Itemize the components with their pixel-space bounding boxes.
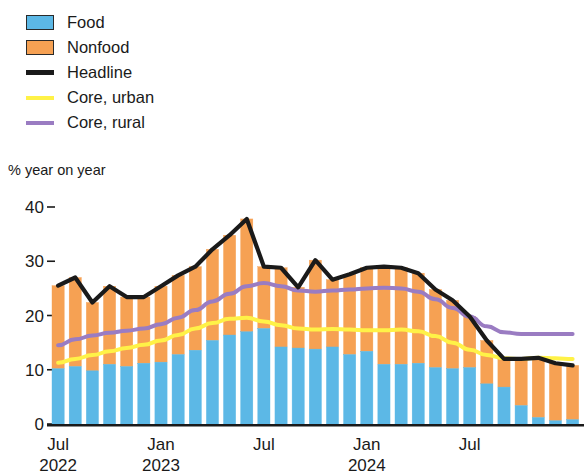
bar-segment-nonfood (275, 268, 287, 347)
bar-segment-food (498, 387, 510, 424)
bar-segment-food (549, 421, 561, 424)
x-tick-label-month-0: Jul (47, 435, 69, 454)
x-tick-label-month-2: Jul (253, 435, 275, 454)
bar-segment-nonfood (515, 359, 527, 406)
x-tick-label-year-3: 2024 (348, 456, 386, 475)
bar-column (567, 365, 579, 424)
bar-segment-food (138, 363, 150, 424)
x-axis-ticks: Jul2022Jan2023JulJan2024Jul (39, 435, 480, 475)
bar-column (189, 267, 201, 424)
bar-segment-nonfood (395, 268, 407, 365)
bar-column (138, 297, 150, 424)
inflation-stacked-bar-figure: FoodNonfoodHeadlineCore, urbanCore, rura… (0, 0, 584, 475)
bar-series-group (52, 219, 579, 424)
bar-segment-food (292, 348, 304, 424)
bar-column (515, 359, 527, 424)
y-axis-ticks: 403020100 (25, 198, 55, 434)
bar-column (224, 235, 236, 424)
bar-segment-food (515, 406, 527, 424)
bar-column (344, 274, 356, 424)
x-tick-label-year-0: 2022 (39, 456, 77, 475)
chart-canvas: 403020100 Jul2022Jan2023JulJan2024Jul (0, 0, 584, 475)
bar-segment-food (52, 369, 64, 424)
bar-column (172, 275, 184, 424)
x-tick-label-month-4: Jul (459, 435, 481, 454)
bar-column (206, 249, 218, 424)
bar-column (549, 363, 561, 424)
bar-column (292, 287, 304, 424)
bar-column (103, 286, 115, 424)
bar-segment-nonfood (52, 286, 64, 369)
bar-segment-food (412, 363, 424, 424)
bar-segment-food (189, 350, 201, 424)
bar-segment-food (326, 347, 338, 424)
bar-segment-nonfood (292, 287, 304, 348)
bar-segment-food (206, 340, 218, 424)
bar-column (498, 359, 510, 424)
bar-segment-food (275, 347, 287, 424)
bar-column (395, 268, 407, 424)
bar-segment-food (103, 364, 115, 424)
bar-column (464, 317, 476, 424)
bar-segment-nonfood (549, 363, 561, 421)
bar-segment-food (464, 368, 476, 424)
bar-column (258, 267, 270, 424)
bar-segment-nonfood (567, 365, 579, 419)
bar-column (326, 280, 338, 424)
bar-segment-food (172, 355, 184, 424)
bar-column (155, 286, 167, 424)
bar-segment-food (378, 364, 390, 424)
bar-column (241, 219, 253, 424)
bar-segment-nonfood (309, 260, 321, 349)
x-tick-label-month-1: Jan (147, 435, 174, 454)
bar-segment-food (258, 329, 270, 424)
bar-column (532, 358, 544, 424)
bar-segment-food (395, 364, 407, 424)
bar-segment-food (446, 369, 458, 424)
bar-segment-food (532, 417, 544, 424)
bar-column (446, 300, 458, 424)
bar-column (429, 289, 441, 424)
y-tick-label-0: 0 (35, 415, 44, 434)
bar-segment-nonfood (412, 273, 424, 363)
bar-segment-nonfood (378, 267, 390, 365)
bar-segment-food (361, 351, 373, 424)
bar-column (69, 278, 81, 424)
bar-segment-food (155, 362, 167, 424)
bar-segment-food (224, 335, 236, 424)
bar-segment-nonfood (532, 358, 544, 418)
y-tick-label-10: 10 (25, 361, 44, 380)
bar-column (86, 302, 98, 424)
x-tick-label-month-3: Jan (353, 435, 380, 454)
bar-segment-nonfood (498, 359, 510, 387)
bar-column (121, 297, 133, 424)
bar-segment-food (241, 332, 253, 424)
bar-column (52, 286, 64, 424)
bar-segment-nonfood (344, 274, 356, 354)
bar-segment-food (344, 355, 356, 424)
bar-column (309, 260, 321, 424)
bar-segment-food (86, 371, 98, 424)
bar-segment-food (69, 367, 81, 425)
bar-column (378, 267, 390, 424)
bar-segment-food (567, 420, 579, 424)
bar-column (412, 273, 424, 424)
bar-segment-food (121, 367, 133, 425)
y-tick-label-40: 40 (25, 198, 44, 217)
y-tick-label-20: 20 (25, 307, 44, 326)
y-tick-label-30: 30 (25, 252, 44, 271)
bar-segment-food (429, 368, 441, 424)
bar-segment-food (481, 384, 493, 424)
bar-segment-nonfood (206, 249, 218, 340)
bar-column (361, 268, 373, 424)
bar-segment-nonfood (361, 268, 373, 352)
bar-segment-nonfood (69, 278, 81, 367)
bar-column (275, 268, 287, 424)
bar-segment-food (309, 349, 321, 424)
x-tick-label-year-1: 2023 (142, 456, 180, 475)
plot-area: 403020100 Jul2022Jan2023JulJan2024Jul (0, 0, 584, 475)
